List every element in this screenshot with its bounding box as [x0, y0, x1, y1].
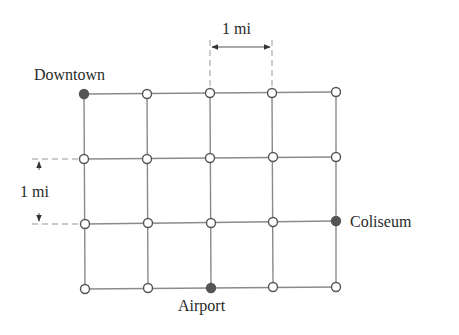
- airport-node: [207, 284, 216, 293]
- airport-label: Airport: [178, 298, 225, 314]
- vertical-scale-label: 1 mi: [20, 184, 49, 200]
- coliseum-label: Coliseum: [350, 214, 411, 230]
- horizontal-scale-label: 1 mi: [222, 21, 251, 37]
- horizontal-scale-indicator: [210, 40, 272, 92]
- coliseum-node: [332, 217, 341, 226]
- street-grid-diagram: [0, 0, 459, 335]
- vertical-streets: [84, 92, 336, 289]
- downtown-label: Downtown: [34, 67, 105, 83]
- downtown-node: [80, 90, 89, 99]
